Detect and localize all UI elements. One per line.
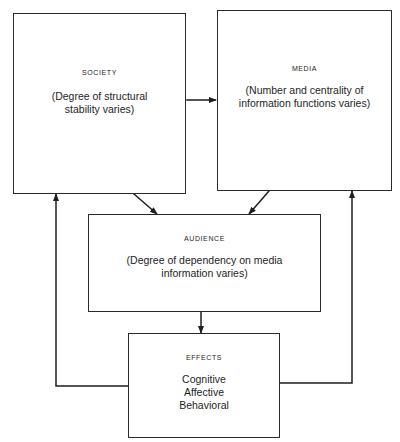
media-box: MEDIA (Number and centrality of informat… <box>217 10 392 191</box>
society-audience-arrow <box>134 194 157 214</box>
audience-box: AUDIENCE (Degree of dependency on media … <box>88 214 321 312</box>
audience-title: AUDIENCE <box>89 235 320 242</box>
effects-title: EFFECTS <box>129 354 279 361</box>
media-description: (Number and centrality of information fu… <box>218 84 391 110</box>
society-box: SOCIETY (Degree of structural stability … <box>13 13 186 194</box>
effects-box: EFFECTS Cognitive Affective Behavioral <box>128 333 280 438</box>
effect-cognitive: Cognitive <box>129 373 279 386</box>
society-title: SOCIETY <box>14 69 185 76</box>
media-title: MEDIA <box>218 65 391 72</box>
media-audience-arrow <box>249 191 269 214</box>
effect-behavioral: Behavioral <box>129 399 279 412</box>
society-description: (Degree of structural stability varies) <box>14 90 185 116</box>
effect-affective: Affective <box>129 386 279 399</box>
audience-description: (Degree of dependency on media informati… <box>89 254 320 280</box>
effects-list: Cognitive Affective Behavioral <box>129 373 279 412</box>
